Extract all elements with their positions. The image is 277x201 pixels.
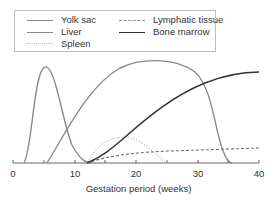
x-tick-label-0: 0 <box>3 168 23 179</box>
legend: Yolk sac Liver Spleen Lymphatic tissue B… <box>14 10 216 52</box>
series-liver <box>47 61 232 163</box>
legend-label-spleen: Spleen <box>61 38 91 49</box>
legend-swatch-lymphatic-tissue <box>119 20 145 21</box>
legend-label-bone-marrow: Bone marrow <box>153 26 210 37</box>
legend-swatch-bone-marrow <box>119 32 145 33</box>
legend-label-liver: Liver <box>61 26 82 37</box>
x-axis-label: Gestation period (weeks) <box>0 183 277 194</box>
series-yolk-sac <box>24 67 92 163</box>
legend-swatch-spleen <box>27 43 53 44</box>
x-tick-label-40: 40 <box>249 168 269 179</box>
series-lymphatic-tissue <box>87 148 259 163</box>
legend-label-lymphatic-tissue: Lymphatic tissue <box>153 14 223 25</box>
x-tick-label-30: 30 <box>188 168 208 179</box>
x-tick-label-20: 20 <box>126 168 146 179</box>
x-tick-label-10: 10 <box>65 168 85 179</box>
legend-swatch-yolk-sac <box>27 20 53 21</box>
legend-swatch-liver <box>27 32 53 33</box>
legend-label-yolk-sac: Yolk sac <box>61 14 96 25</box>
